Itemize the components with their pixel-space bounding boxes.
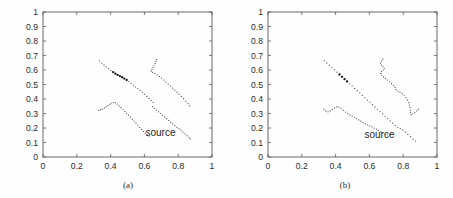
- plot-a-svg: 00.20.40.60.8100.10.20.30.40.50.60.70.80…: [0, 0, 226, 198]
- y-tick-label: 1: [33, 7, 38, 17]
- y-tick-label: 0.2: [26, 123, 38, 133]
- y-tick-label: 0.1: [26, 138, 38, 148]
- chart-panel-b: 00.20.40.60.8100.10.20.30.40.50.60.70.80…: [227, 0, 453, 198]
- x-tick-label: 1: [210, 161, 215, 171]
- y-tick-label: 0.2: [251, 123, 263, 133]
- y-tick-label: 0.5: [251, 80, 263, 90]
- x-tick-label: 0.6: [138, 161, 150, 171]
- chart-panel-a: 00.20.40.60.8100.10.20.30.40.50.60.70.80…: [0, 0, 226, 198]
- plot-a-axes: 00.20.40.60.8100.10.20.30.40.50.60.70.80…: [26, 7, 215, 171]
- y-tick-label: 0.8: [251, 36, 263, 46]
- x-tick-label: 0.4: [105, 161, 117, 171]
- y-tick-label: 0.9: [251, 22, 263, 32]
- y-tick-label: 0.3: [26, 109, 38, 119]
- y-tick-label: 0.7: [251, 51, 263, 61]
- caption-a: (a): [123, 180, 133, 190]
- trajectory: [151, 59, 191, 106]
- y-tick-label: 0.6: [251, 65, 263, 75]
- x-tick-label: 0.8: [172, 161, 184, 171]
- trajectory: [99, 60, 154, 103]
- caption-b: (b): [340, 180, 351, 190]
- plot-b-axes: 00.20.40.60.8100.10.20.30.40.50.60.70.80…: [251, 7, 440, 171]
- x-tick-label: 0: [41, 161, 46, 171]
- figure-root: 00.20.40.60.8100.10.20.30.40.50.60.70.80…: [0, 0, 453, 198]
- y-tick-label: 0.6: [26, 65, 38, 75]
- y-tick-label: 0.9: [26, 22, 38, 32]
- y-tick-label: 0.3: [251, 109, 263, 119]
- y-tick-label: 0.8: [26, 36, 38, 46]
- x-tick-label: 0.2: [296, 161, 308, 171]
- x-tick-label: 1: [435, 161, 440, 171]
- y-tick-label: 0.4: [26, 94, 38, 104]
- trajectory: [380, 59, 419, 116]
- y-tick-label: 0.4: [251, 94, 263, 104]
- x-tick-label: 0.2: [71, 161, 83, 171]
- x-tick-label: 0.4: [330, 161, 342, 171]
- y-tick-label: 0.5: [26, 80, 38, 90]
- y-tick-label: 0.7: [26, 51, 38, 61]
- x-tick-label: 0.6: [363, 161, 375, 171]
- y-tick-label: 0: [33, 152, 38, 162]
- y-tick-label: 1: [258, 7, 263, 17]
- x-tick-label: 0.8: [397, 161, 409, 171]
- y-tick-label: 0.1: [251, 138, 263, 148]
- plot-b-svg: 00.20.40.60.8100.10.20.30.40.50.60.70.80…: [227, 0, 453, 198]
- source-annotation-b: source: [364, 129, 394, 140]
- trajectory: [98, 102, 149, 137]
- x-tick-label: 0: [266, 161, 271, 171]
- y-tick-label: 0: [258, 152, 263, 162]
- source-annotation-a: source: [145, 127, 175, 138]
